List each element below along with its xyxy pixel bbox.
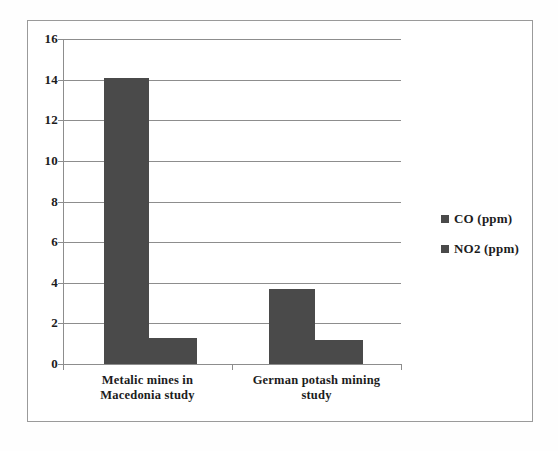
legend-item: NO2 (ppm): [441, 241, 556, 257]
gridline: [63, 39, 401, 40]
category-label: German potash miningstudy: [232, 373, 401, 403]
y-axis-tick: [58, 120, 63, 121]
category-label: Metalic mines inMacedonia study: [63, 373, 232, 403]
category-label-line: Metalic mines in: [63, 373, 232, 388]
bar: [104, 78, 149, 364]
y-axis-tick-label: 4: [51, 275, 58, 291]
category-tick: [401, 364, 402, 370]
y-axis-tick-label: 0: [51, 356, 58, 372]
legend-label: CO (ppm): [454, 211, 512, 227]
chart-frame: 1614121086420 Metalic mines inMacedonia …: [27, 20, 533, 422]
bar: [149, 338, 197, 364]
plot-area: [63, 39, 401, 364]
y-axis-tick: [58, 323, 63, 324]
category-label-line: German potash mining: [232, 373, 401, 388]
legend-swatch-icon: [441, 215, 449, 223]
y-axis-tick-label: 2: [51, 315, 58, 331]
legend-swatch-icon: [441, 245, 449, 253]
y-axis-labels: 1614121086420: [26, 39, 58, 364]
legend-label: NO2 (ppm): [454, 241, 519, 257]
y-axis-tick-label: 8: [51, 194, 58, 210]
y-axis-tick-label: 12: [44, 112, 58, 128]
category-tick: [63, 364, 64, 370]
y-axis-tick: [58, 283, 63, 284]
category-tick: [232, 364, 233, 370]
y-axis-tick: [58, 39, 63, 40]
y-axis-tick: [58, 161, 63, 162]
chart-figure: 1614121086420 Metalic mines inMacedonia …: [0, 0, 558, 451]
chart-legend: CO (ppm)NO2 (ppm): [441, 211, 556, 271]
y-axis-tick: [58, 80, 63, 81]
y-axis-tick-label: 16: [44, 31, 58, 47]
category-label-line: study: [232, 388, 401, 403]
y-axis-tick: [58, 242, 63, 243]
y-axis-tick-label: 14: [44, 72, 58, 88]
category-label-line: Macedonia study: [63, 388, 232, 403]
bar: [269, 289, 315, 364]
bar: [315, 340, 363, 364]
y-axis-tick-label: 10: [44, 153, 58, 169]
y-axis-tick: [58, 202, 63, 203]
legend-item: CO (ppm): [441, 211, 556, 227]
y-axis-tick-label: 6: [51, 234, 58, 250]
